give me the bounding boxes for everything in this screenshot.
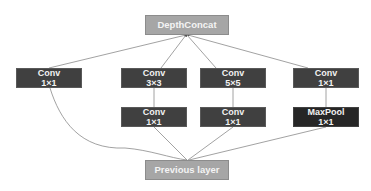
size-label: 3×3	[146, 78, 161, 88]
op-label: Conv	[222, 107, 245, 117]
op-label: Conv	[38, 68, 61, 78]
size-label: 1×1	[41, 78, 56, 88]
op-label: Conv	[143, 68, 166, 78]
conv-1x1-before-3x3: Conv 1×1	[121, 107, 187, 127]
size-label: 1×1	[225, 117, 240, 127]
maxpool-node: MaxPool 1×1	[293, 107, 359, 127]
size-label: 1×1	[318, 117, 333, 127]
conv-1x1-branch1: Conv 1×1	[16, 68, 82, 88]
size-label: 5×5	[225, 78, 240, 88]
size-label: 1×1	[318, 78, 333, 88]
op-label: MaxPool	[307, 107, 344, 117]
op-label: Conv	[222, 68, 245, 78]
depth-concat-node: DepthConcat	[145, 15, 229, 35]
previous-layer-label: Previous layer	[155, 165, 220, 175]
conv-1x1-before-5x5: Conv 1×1	[200, 107, 266, 127]
depth-concat-label: DepthConcat	[157, 20, 216, 30]
conv-5x5: Conv 5×5	[200, 68, 266, 88]
op-label: Conv	[143, 107, 166, 117]
conv-1x1-after-pool: Conv 1×1	[293, 68, 359, 88]
size-label: 1×1	[146, 117, 161, 127]
conv-3x3: Conv 3×3	[121, 68, 187, 88]
op-label: Conv	[315, 68, 338, 78]
previous-layer-node: Previous layer	[145, 160, 229, 180]
